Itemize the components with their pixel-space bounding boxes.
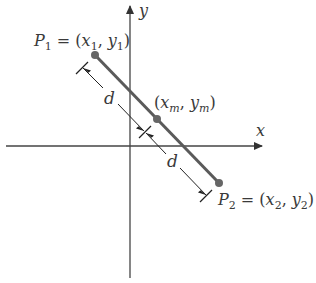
x-axis-label: x [256,121,265,140]
midpoint-label: (xm, ym) [154,93,216,115]
midpoint-diagram: y x d d P1 = (x1, y1) (xm, ym) P2 = (x2,… [0,0,316,283]
point-p2 [215,179,223,187]
dimension-lines [76,62,212,202]
distance-label-1: d [104,88,115,108]
point-midpoint [153,115,161,123]
p2-label: P2 = (x2, y2) [217,190,314,212]
y-axis-label: y [138,1,149,20]
p1-label: P1 = (x1, y1) [33,31,130,53]
distance-label-2: d [167,151,178,171]
